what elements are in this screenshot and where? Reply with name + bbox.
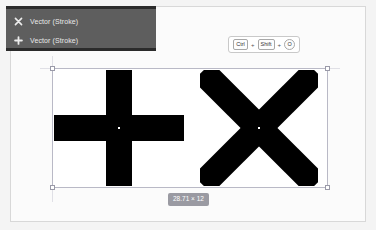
keycap-o: O <box>284 39 295 50</box>
keyboard-shortcut-hint: Ctrl + Shift + O <box>228 36 300 53</box>
keycap-separator: + <box>277 42 283 48</box>
alignment-guide-vertical <box>52 56 53 202</box>
layer-item-label: Vector (Stroke) <box>30 37 78 44</box>
layer-item-label: Vector (Stroke) <box>30 18 78 25</box>
dimension-readout: 28.71 × 12 <box>168 193 209 206</box>
x-shape[interactable] <box>200 70 318 186</box>
plus-icon <box>14 36 23 45</box>
layer-item-vector-stroke-2[interactable]: Vector (Stroke) <box>6 31 156 50</box>
layer-item-vector-stroke-1[interactable]: Vector (Stroke) <box>6 12 156 31</box>
keycap-ctrl: Ctrl <box>233 39 248 50</box>
keycap-separator: + <box>250 42 256 48</box>
x-cross-icon <box>14 17 23 26</box>
app-root: 28.71 × 12 Vector (Stroke) Vector (Strok… <box>0 0 376 230</box>
alignment-guide-horizontal <box>40 68 340 69</box>
keycap-shift: Shift <box>258 39 275 50</box>
plus-shape-anchor-dot <box>118 127 120 129</box>
layer-context-panel: Vector (Stroke) Vector (Stroke) <box>6 6 156 51</box>
x-shape-anchor-dot <box>258 127 260 129</box>
plus-shape[interactable] <box>54 70 184 186</box>
